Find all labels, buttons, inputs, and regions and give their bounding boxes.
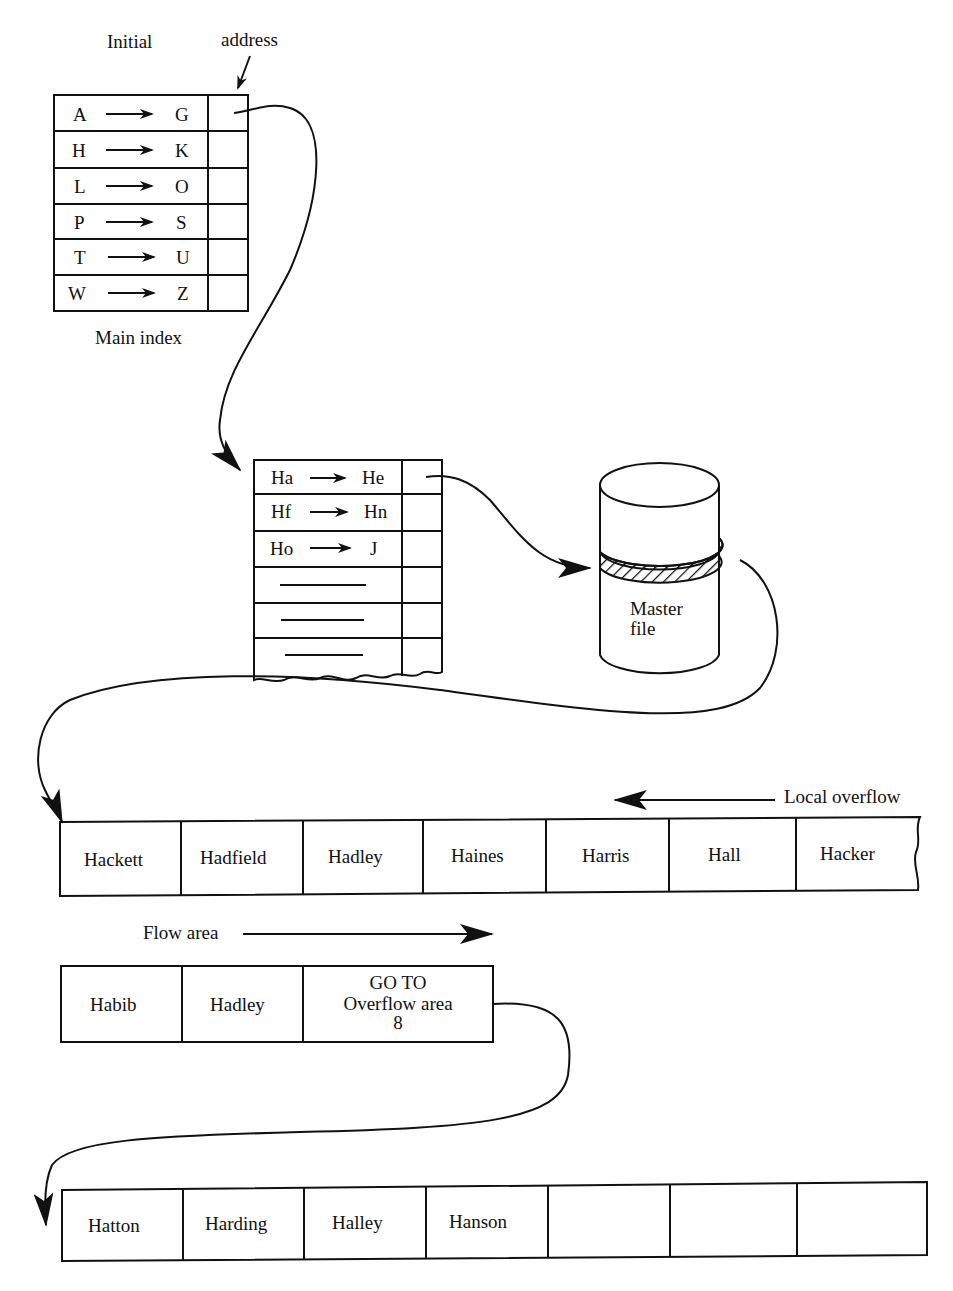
master-file-label-1: Master bbox=[630, 598, 683, 619]
record-cell: Harding bbox=[205, 1213, 268, 1234]
goto-line-2: Overflow area bbox=[343, 993, 453, 1014]
record-cell: Hackett bbox=[84, 849, 144, 870]
sub-index-row: Hf Hn bbox=[271, 501, 388, 522]
record-cell: Hanson bbox=[449, 1211, 508, 1232]
address-pointer-arrow bbox=[238, 56, 250, 88]
local-overflow-label: Local overflow bbox=[784, 786, 901, 807]
record-cell: Habib bbox=[90, 994, 136, 1015]
pointer-sub-index-to-master bbox=[426, 476, 590, 568]
main-index-row: T U bbox=[74, 247, 190, 268]
master-file-label-2: file bbox=[630, 618, 655, 639]
svg-text:P: P bbox=[74, 212, 85, 233]
svg-text:H: H bbox=[72, 140, 86, 161]
svg-text:L: L bbox=[74, 176, 86, 197]
record-cell: Haines bbox=[451, 845, 504, 866]
flow-area-label: Flow area bbox=[143, 922, 219, 943]
svg-text:Ho: Ho bbox=[270, 538, 293, 559]
svg-text:K: K bbox=[175, 140, 189, 161]
prime-area: Local overflow Hackett Hadfield Hadley H… bbox=[60, 786, 920, 896]
main-index-row: P S bbox=[74, 212, 187, 233]
sub-index-row: Ho J bbox=[270, 538, 377, 559]
goto-line-3: 8 bbox=[393, 1012, 403, 1033]
main-index: Initial address A G H K L O P S bbox=[54, 29, 278, 348]
svg-text:O: O bbox=[175, 176, 189, 197]
record-cell: Hadley bbox=[328, 846, 383, 867]
address-label: address bbox=[221, 29, 278, 50]
file-organization-diagram: Initial address A G H K L O P S bbox=[0, 0, 953, 1291]
record-cell: Halley bbox=[332, 1212, 383, 1233]
svg-text:Hf: Hf bbox=[271, 501, 292, 522]
record-cell: Hadley bbox=[210, 994, 265, 1015]
svg-text:A: A bbox=[73, 104, 87, 125]
pointer-main-to-sub-index bbox=[219, 106, 316, 470]
sub-index: Ha He Hf Hn Ho J bbox=[254, 460, 442, 681]
svg-text:T: T bbox=[74, 247, 86, 268]
record-cell: Hadfield bbox=[200, 847, 267, 868]
svg-text:S: S bbox=[176, 212, 187, 233]
sub-index-row: Ha He bbox=[271, 467, 384, 488]
svg-text:Hn: Hn bbox=[364, 501, 388, 522]
record-cell: Hatton bbox=[88, 1215, 140, 1236]
svg-text:J: J bbox=[370, 538, 377, 559]
svg-text:Z: Z bbox=[177, 283, 189, 304]
main-index-row: L O bbox=[74, 176, 189, 197]
initial-label: Initial bbox=[107, 31, 152, 52]
main-index-row: A G bbox=[73, 104, 189, 125]
svg-text:Ha: Ha bbox=[271, 467, 294, 488]
svg-text:W: W bbox=[68, 283, 86, 304]
main-index-row: H K bbox=[72, 140, 189, 161]
pointer-flow-to-overflow-area bbox=[45, 1004, 569, 1225]
overflow-area: Hatton Harding Halley Hanson bbox=[62, 1182, 927, 1261]
main-index-row: W Z bbox=[68, 283, 189, 304]
svg-text:He: He bbox=[362, 467, 384, 488]
record-cell: Hall bbox=[708, 844, 741, 865]
main-index-caption: Main index bbox=[95, 327, 183, 348]
record-cell: Harris bbox=[582, 845, 629, 866]
flow-area: Flow area Habib Hadley GO TO Overflow ar… bbox=[61, 922, 493, 1042]
record-cell: Hacker bbox=[820, 843, 876, 864]
master-file-cylinder: Master file bbox=[600, 463, 723, 673]
svg-text:G: G bbox=[175, 104, 189, 125]
goto-line-1: GO TO bbox=[370, 972, 427, 993]
svg-text:U: U bbox=[176, 247, 190, 268]
